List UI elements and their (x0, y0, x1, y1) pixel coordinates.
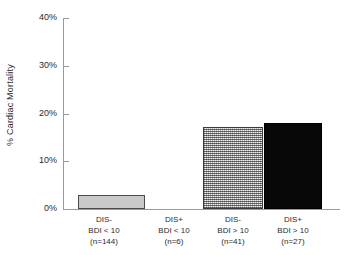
category-line-3: (n=6) (145, 236, 203, 247)
category-label-3: DIS+ BDI > 10 (n=27) (264, 214, 322, 247)
cardiac-mortality-bar-chart: % Cardiac Mortality 40% 30% 20% 10% 0% (0, 0, 355, 255)
x-axis-line (63, 209, 340, 210)
y-tick-label: 40% (23, 12, 57, 22)
category-label-1: DIS+ BDI < 10 (n=6) (145, 214, 203, 247)
y-tick-label: 20% (23, 108, 57, 118)
y-tick-30: 30% (63, 66, 69, 67)
y-tick-label: 30% (23, 60, 57, 70)
y-tick-10: 10% (63, 161, 69, 162)
bar-dis-neg-bdi-gt-10 (203, 127, 263, 209)
y-axis-title: % Cardiac Mortality (0, 0, 20, 210)
category-line-1: DIS+ (145, 214, 203, 225)
y-tick-mark (64, 66, 69, 67)
y-tick-mark (64, 209, 69, 210)
category-line-2: BDI < 10 (63, 225, 145, 236)
category-line-2: BDI > 10 (203, 225, 263, 236)
category-line-1: DIS- (63, 214, 145, 225)
y-tick-20: 20% (63, 114, 69, 115)
plot-area: 40% 30% 20% 10% 0% (63, 18, 340, 209)
y-tick-mark (64, 18, 69, 19)
category-line-1: DIS- (203, 214, 263, 225)
category-line-3: (n=144) (63, 236, 145, 247)
y-tick-mark (64, 114, 69, 115)
category-label-2: DIS- BDI > 10 (n=41) (203, 214, 263, 247)
category-line-3: (n=27) (264, 236, 322, 247)
category-label-0: DIS- BDI < 10 (n=144) (63, 214, 145, 247)
y-tick-0: 0% (63, 209, 69, 210)
bar-dis-neg-bdi-lt-10 (78, 195, 145, 209)
category-line-2: BDI < 10 (145, 225, 203, 236)
category-line-1: DIS+ (264, 214, 322, 225)
category-line-2: BDI > 10 (264, 225, 322, 236)
bar-dis-pos-bdi-gt-10 (264, 123, 322, 209)
y-axis-title-text: % Cardiac Mortality (5, 64, 15, 146)
y-tick-label: 0% (23, 203, 57, 213)
y-tick-label: 10% (23, 155, 57, 165)
category-line-3: (n=41) (203, 236, 263, 247)
y-tick-mark (64, 161, 69, 162)
y-tick-40: 40% (63, 18, 69, 19)
